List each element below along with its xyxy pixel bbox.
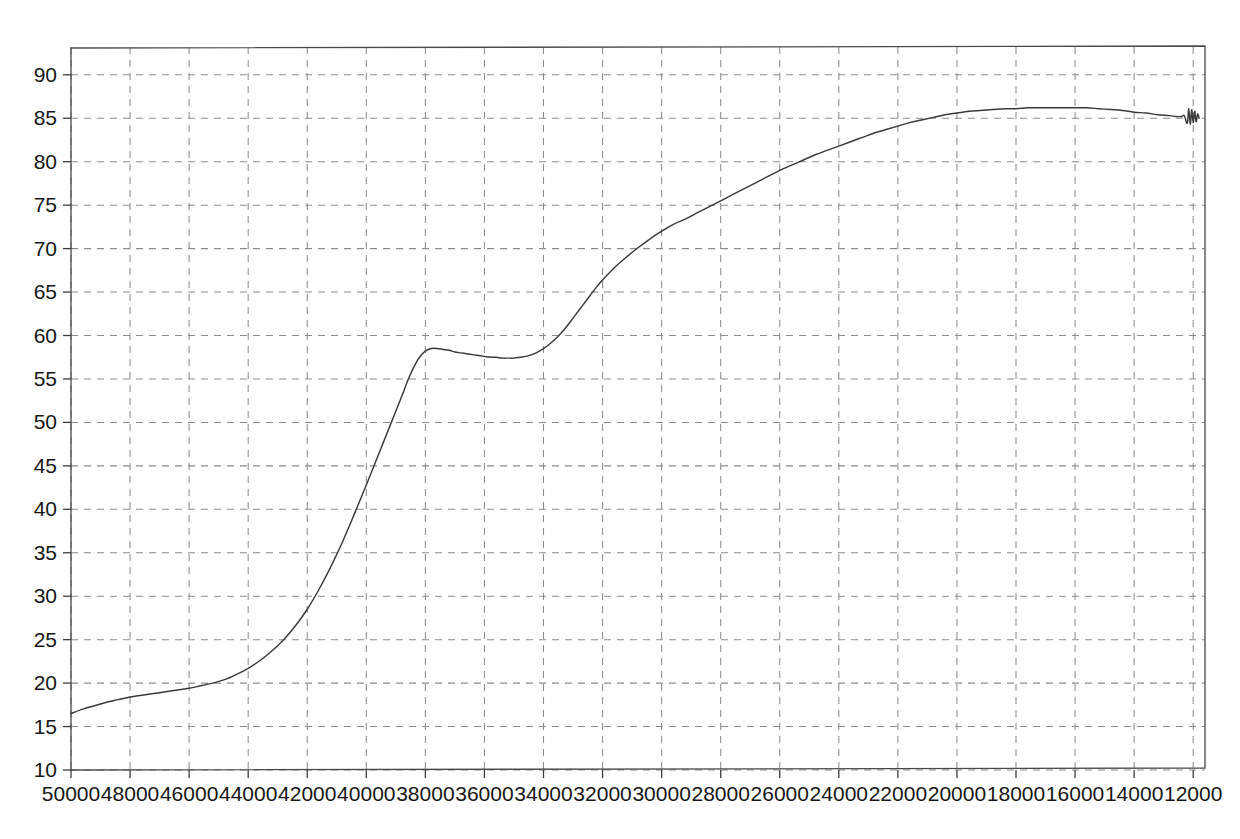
x-axis-tick-label: 24000 <box>810 782 868 805</box>
x-axis-tick-label: 36000 <box>455 782 513 805</box>
y-axis-tick-label: 40 <box>34 497 57 520</box>
plot-border <box>71 46 1205 770</box>
x-axis-tick-label: 32000 <box>573 782 631 805</box>
y-axis-tick-label: 20 <box>34 671 57 694</box>
x-axis-tick-label: 20000 <box>928 782 986 805</box>
x-axis-tick-label: 22000 <box>869 782 927 805</box>
x-axis-tick-label: 42000 <box>278 782 336 805</box>
x-axis-tick-label: 44000 <box>219 782 277 805</box>
y-axis-tick-label: 45 <box>34 454 57 477</box>
x-axis-tick-label: 48000 <box>101 782 159 805</box>
x-axis-tick-label: 14000 <box>1105 782 1163 805</box>
y-axis-tick-label: 35 <box>34 541 57 564</box>
y-axis-tick-label: 85 <box>34 106 57 129</box>
y-axis-tick-label: 90 <box>34 63 57 86</box>
x-axis-tick-label: 38000 <box>396 782 454 805</box>
y-axis-tick-label: 15 <box>34 715 57 738</box>
data-series-line <box>71 108 1199 714</box>
x-axis-tick-labels: 5000048000460004400042000400003800036000… <box>42 782 1223 805</box>
x-axis-tick-label: 30000 <box>632 782 690 805</box>
y-axis-tick-label: 50 <box>34 410 57 433</box>
y-axis-tick-label: 30 <box>34 584 57 607</box>
grid-layer <box>71 47 1205 770</box>
y-axis-tick-label: 80 <box>34 150 57 173</box>
y-axis-tick-labels: 1015202530354045505560657075808590 <box>34 63 57 781</box>
x-axis-tick-label: 40000 <box>337 782 395 805</box>
x-axis-tick-label: 50000 <box>42 782 100 805</box>
y-axis-tick-label: 60 <box>34 324 57 347</box>
x-axis-tick-label: 28000 <box>691 782 749 805</box>
y-axis-tick-label: 75 <box>34 193 57 216</box>
x-axis-tick-label: 26000 <box>751 782 809 805</box>
x-axis-tick-label: 34000 <box>514 782 572 805</box>
x-axis-tick-label: 16000 <box>1046 782 1104 805</box>
y-axis-tick-label: 25 <box>34 628 57 651</box>
y-axis-tick-label: 70 <box>34 237 57 260</box>
spectrum-chart: 1015202530354045505560657075808590 50000… <box>0 0 1240 839</box>
x-axis-tick-label: 12000 <box>1164 782 1222 805</box>
y-axis-tick-label: 10 <box>34 758 57 781</box>
plot-frame <box>71 46 1205 770</box>
chart-canvas: 1015202530354045505560657075808590 50000… <box>0 0 1240 839</box>
x-axis-tick-label: 46000 <box>160 782 218 805</box>
y-axis-tick-label: 65 <box>34 280 57 303</box>
y-axis-tick-label: 55 <box>34 367 57 390</box>
x-axis-tick-label: 18000 <box>987 782 1045 805</box>
tick-marks <box>63 75 1193 778</box>
data-series-layer <box>71 108 1199 714</box>
